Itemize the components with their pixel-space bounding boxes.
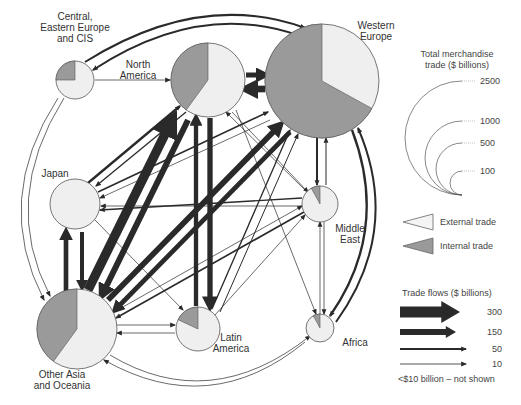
legend-size-arc bbox=[405, 81, 462, 195]
internal-trade-swatch-icon bbox=[403, 238, 433, 254]
legend-flow-widths: 3001505010 bbox=[400, 301, 502, 369]
region-oa: Other Asiaand Oceania bbox=[34, 289, 117, 391]
legend-flow-value: 150 bbox=[487, 327, 502, 337]
region-me-label: East bbox=[340, 234, 360, 245]
legend-flow-arrow-icon bbox=[400, 326, 456, 338]
region-la-label: Latin bbox=[220, 332, 242, 343]
region-we: WesternEurope bbox=[265, 20, 395, 138]
legend-total-trade: Total merchandise trade ($ billions) 250… bbox=[405, 49, 500, 195]
region-cee-label: and CIS bbox=[57, 33, 93, 44]
legend-size-value: 2500 bbox=[480, 76, 500, 86]
legend-total-trade-title-1: Total merchandise bbox=[420, 49, 493, 59]
region-cee: Central,Eastern Europeand CIS bbox=[40, 11, 110, 99]
region-oa-label: and Oceania bbox=[34, 380, 91, 391]
regions: Central,Eastern Europeand CISNorthAmeric… bbox=[34, 11, 395, 391]
legend-size-arc bbox=[425, 121, 462, 195]
legend-trade-flows-note: <$10 billion – not shown bbox=[398, 374, 495, 384]
trade-flow-jp-to-na bbox=[88, 106, 180, 183]
legend-size-value: 500 bbox=[480, 138, 495, 148]
legend-external-trade-label: External trade bbox=[440, 217, 496, 227]
legend-internal-trade-label: Internal trade bbox=[440, 241, 493, 251]
legend-flow-value: 300 bbox=[487, 307, 502, 317]
legend: Total merchandise trade ($ billions) 250… bbox=[398, 49, 502, 384]
region-me-label: Middle bbox=[335, 223, 365, 234]
region-cee-label: Eastern Europe bbox=[40, 22, 110, 33]
external-trade-swatch-icon bbox=[403, 214, 433, 230]
legend-size-value: 1000 bbox=[480, 116, 500, 126]
region-jp-label: Japan bbox=[41, 168, 68, 179]
region-jp-pie bbox=[50, 179, 100, 229]
region-na: NorthAmerica bbox=[120, 43, 245, 117]
region-cee-internal-slice bbox=[56, 61, 75, 80]
region-me: MiddleEast bbox=[302, 186, 365, 245]
region-la-label: America bbox=[213, 343, 250, 354]
region-la: LatinAmerica bbox=[176, 307, 250, 354]
legend-size-arc bbox=[436, 143, 462, 195]
region-na-label: America bbox=[120, 70, 157, 81]
region-af-label: Africa bbox=[342, 337, 368, 348]
trade-flow-diagram: Central,Eastern Europeand CISNorthAmeric… bbox=[0, 0, 521, 405]
legend-size-value: 100 bbox=[480, 166, 495, 176]
legend-size-arcs: 25001000500100 bbox=[405, 76, 500, 195]
region-cee-label: Central, bbox=[57, 11, 92, 22]
legend-trade-flows: Trade flows ($ billions) 3001505010 <$10… bbox=[398, 288, 502, 384]
legend-total-trade-title-2: trade ($ billions) bbox=[425, 60, 489, 70]
region-jp: Japan bbox=[41, 168, 100, 229]
world-trade-diagram: Central,Eastern Europeand CISNorthAmeric… bbox=[0, 0, 521, 405]
region-we-label: Western bbox=[357, 20, 394, 31]
legend-flow-arrow-icon bbox=[400, 301, 460, 323]
region-we-label: Europe bbox=[360, 31, 393, 42]
region-oa-label: Other Asia bbox=[39, 369, 86, 380]
legend-trade-type: External trade Internal trade bbox=[403, 214, 496, 254]
legend-flow-value: 10 bbox=[492, 359, 502, 369]
legend-size-arc bbox=[450, 171, 462, 195]
region-na-label: North bbox=[126, 59, 150, 70]
legend-trade-flows-title: Trade flows ($ billions) bbox=[402, 288, 492, 298]
legend-flow-value: 50 bbox=[492, 344, 502, 354]
